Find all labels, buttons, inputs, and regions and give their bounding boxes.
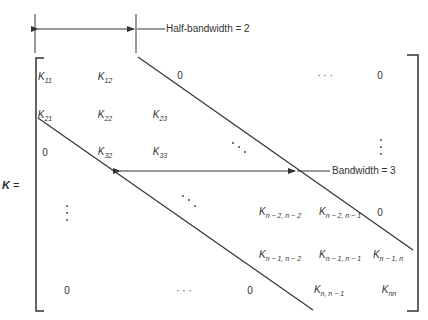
matrix-cell-k23: K23	[153, 109, 167, 122]
matrix-cell-knn1: Kn, n − 1	[314, 284, 344, 297]
band-matrix-lines	[0, 0, 428, 320]
matrix-cell-kn1n: Kn − 1, n	[373, 249, 403, 262]
matrix-cell-k32: K32	[98, 146, 112, 159]
equals-sign: =	[13, 179, 19, 191]
matrix-cell-k12: K12	[98, 71, 112, 84]
bandwidth-label: Bandwidth = 3	[332, 165, 396, 176]
matrix-cell-kn2n2: Kn − 2, n − 2	[259, 206, 301, 219]
matrix-cell-r3c1: 0	[42, 147, 48, 158]
half-bandwidth-label: Half-bandwidth = 2	[166, 23, 250, 34]
matrix-cell-rnc1: 0	[64, 285, 70, 296]
matrix-cell-rndots: · · ·	[176, 285, 192, 296]
matrix-cell-k33: K33	[153, 146, 167, 159]
matrix-cell-k11: K11	[38, 71, 52, 84]
matrix-name: K	[2, 179, 10, 191]
matrix-cell-r1dots: · · ·	[317, 70, 333, 81]
matrix-cell-kn1n1: Kn − 1, n − 1	[319, 249, 361, 262]
matrix-cell-k21: K21	[38, 109, 52, 122]
matrix-cell-r1cn: 0	[377, 70, 383, 81]
matrix-cell-k22: K22	[98, 109, 112, 122]
matrix-cell-r4cn: 0	[377, 207, 383, 218]
matrix-cell-knn: Knn	[382, 284, 396, 297]
matrix-cell-kn1n2: Kn − 1, n − 2	[259, 249, 301, 262]
matrix-cell-kn2n1: Kn − 2, n − 1	[319, 206, 361, 219]
matrix-cell-rnc3: 0	[247, 285, 253, 296]
matrix-cell-r1c3: 0	[177, 70, 183, 81]
